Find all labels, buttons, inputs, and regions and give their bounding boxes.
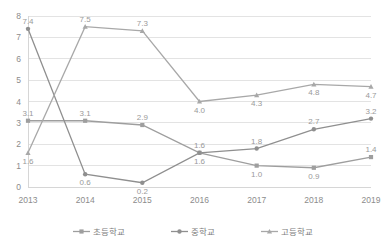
- y-axis-tick-labels: 012345678: [16, 11, 21, 192]
- data-point-label: 0.6: [80, 178, 92, 187]
- legend-item-초등학교[interactable]: 초등학교: [73, 225, 125, 237]
- series-marker: [26, 119, 30, 123]
- x-axis-tick-label: 2016: [190, 195, 209, 205]
- series-marker: [312, 127, 316, 131]
- series-marker: [83, 119, 87, 123]
- y-axis-tick-label: 5: [16, 75, 21, 85]
- data-point-label: 2.7: [308, 117, 320, 126]
- y-axis-tick-label: 2: [16, 139, 21, 149]
- series-marker: [254, 146, 258, 150]
- series-marker: [25, 150, 30, 155]
- x-axis-tick-label: 2014: [76, 195, 95, 205]
- legend-marker-icon: [171, 227, 188, 236]
- x-axis-tick-label: 2018: [304, 195, 323, 205]
- legend-marker-icon: [73, 227, 90, 236]
- legend-item-고등학교[interactable]: 고등학교: [261, 225, 313, 237]
- series-marker: [140, 181, 144, 185]
- series-line: [28, 27, 371, 153]
- data-point-label: 2.9: [137, 113, 149, 122]
- data-point-label: 3.1: [22, 109, 34, 118]
- y-axis-tick-label: 3: [16, 118, 21, 128]
- legend-item-중학교[interactable]: 중학교: [171, 225, 215, 237]
- legend-marker-icon: [261, 227, 278, 236]
- x-axis-tick-label: 2013: [19, 195, 38, 205]
- data-point-label: 4.7: [365, 91, 377, 100]
- x-axis-tick-label: 2015: [133, 195, 152, 205]
- data-point-label: 1.0: [251, 170, 263, 179]
- y-axis-tick-label: 1: [16, 161, 21, 171]
- x-axis-tick-label: 2017: [247, 195, 266, 205]
- data-point-label: 1.8: [251, 137, 263, 146]
- series-marker: [83, 172, 87, 176]
- data-point-label: 1.6: [194, 157, 206, 166]
- data-point-label: 1.4: [365, 145, 377, 154]
- series-marker: [140, 123, 144, 127]
- data-point-label: 1.6: [194, 141, 206, 150]
- y-axis-tick-label: 7: [16, 32, 21, 42]
- data-point-labels: 3.13.12.91.61.00.91.47.40.60.21.61.82.73…: [22, 15, 377, 196]
- data-point-label: 7.3: [137, 19, 149, 28]
- data-point-label: 7.4: [22, 17, 34, 26]
- series-marker: [312, 166, 316, 170]
- y-axis-tick-label: 0: [16, 182, 21, 192]
- x-axis-tick-labels: 2013201420152016201720182019: [19, 195, 381, 205]
- legend-label: 중학교: [191, 225, 215, 237]
- data-point-label: 4.3: [251, 99, 263, 108]
- data-point-label: 3.1: [80, 109, 92, 118]
- data-point-label: 4.8: [308, 88, 320, 97]
- data-point-label: 4.0: [194, 106, 206, 115]
- legend-label: 초등학교: [93, 225, 125, 237]
- data-point-label: 7.5: [80, 15, 92, 24]
- series-marker: [197, 151, 201, 155]
- y-axis-tick-label: 6: [16, 54, 21, 64]
- data-point-label: 0.2: [137, 187, 149, 196]
- y-axis-tick-label: 4: [16, 97, 21, 107]
- chart-canvas: 012345678 2013201420152016201720182019 3…: [0, 0, 386, 250]
- series-marker: [369, 155, 373, 159]
- series-marker: [255, 164, 259, 168]
- data-point-label: 0.9: [308, 172, 320, 181]
- chart-legend: 초등학교중학교고등학교: [0, 221, 386, 241]
- series-marker: [26, 27, 30, 31]
- legend-label: 고등학교: [281, 225, 313, 237]
- y-axis-tick-label: 8: [16, 11, 21, 21]
- series-marker: [369, 116, 373, 120]
- x-axis-tick-label: 2019: [362, 195, 381, 205]
- line-chart: 012345678 2013201420152016201720182019 3…: [0, 0, 386, 250]
- data-point-label: 1.6: [22, 157, 34, 166]
- data-point-label: 3.2: [365, 107, 377, 116]
